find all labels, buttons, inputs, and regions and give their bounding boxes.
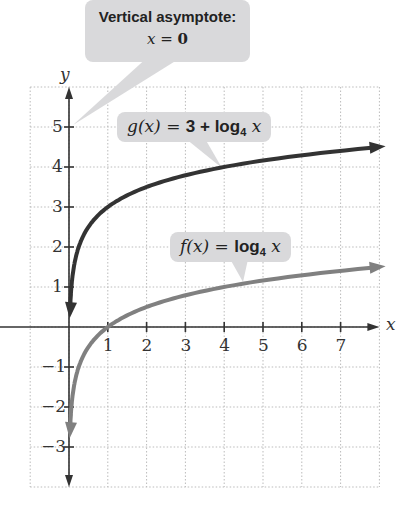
asymptote-callout: Vertical asymptote: x = 0 [85, 0, 250, 62]
x-axis-label: x [386, 314, 396, 334]
y-tick-label: −3 [41, 436, 66, 456]
x-tick-label: 6 [297, 335, 308, 355]
y-tick-label: 5 [52, 116, 63, 136]
x-tick-label: 4 [219, 335, 230, 355]
y-tick-label: 3 [52, 196, 63, 216]
f-label: f(x) = log4 x [170, 232, 291, 262]
y-tick-label: 2 [52, 236, 63, 256]
g-curve [70, 148, 371, 309]
y-tick-label: 1 [52, 276, 63, 296]
asymptote-title: Vertical asymptote: [85, 6, 250, 28]
y-tick-label: 4 [52, 156, 63, 176]
x-tick-label: 1 [103, 335, 114, 355]
y-tick-label: −2 [41, 396, 66, 416]
x-tick-label: 5 [258, 335, 269, 355]
g-label: g(x) = 3 + log4 x [117, 112, 271, 142]
x-tick-label: 2 [142, 335, 153, 355]
y-axis-label: y [60, 64, 70, 84]
asymptote-equation: x = 0 [85, 28, 250, 50]
x-tick-label: 3 [180, 335, 191, 355]
y-tick-label: −1 [41, 356, 66, 376]
x-tick-label: 7 [336, 335, 347, 355]
